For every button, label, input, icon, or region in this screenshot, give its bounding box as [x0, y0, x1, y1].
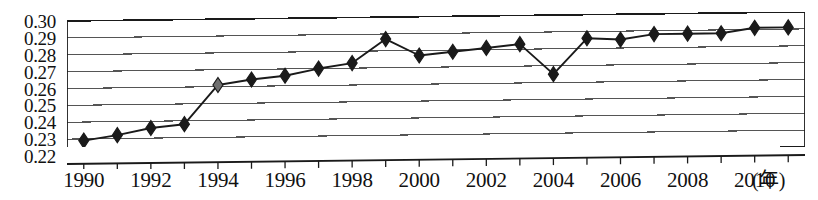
- x-tick-label: 2008: [667, 168, 708, 192]
- gridlines: [67, 12, 805, 147]
- data-point-marker: [616, 32, 626, 47]
- data-point-marker: [314, 61, 324, 76]
- data-point-marker: [247, 72, 257, 87]
- x-tick-label: 2010: [734, 168, 775, 192]
- data-point-marker: [548, 67, 558, 82]
- line-chart: 0.220.230.240.250.260.270.280.290.30 (年)…: [0, 0, 818, 200]
- plot-area: [67, 12, 805, 147]
- plot-frame: [67, 12, 805, 147]
- x-tick-label: 2002: [466, 168, 507, 192]
- x-tick-label: 1992: [130, 168, 171, 192]
- data-point-marker: [280, 68, 290, 83]
- data-point-marker: [112, 128, 122, 143]
- x-tick-label: 2004: [533, 168, 574, 192]
- x-tick-label: 1996: [264, 168, 305, 192]
- x-axis-ticks: [67, 147, 807, 169]
- x-tick-label: 2000: [399, 168, 440, 192]
- data-point-marker: [683, 26, 693, 41]
- x-tick-label: 2006: [600, 168, 641, 192]
- data-point-marker: [649, 27, 659, 42]
- x-axis: (年) 199019921994199619982000200220042006…: [0, 168, 818, 200]
- data-point-marker: [750, 20, 760, 35]
- data-point-marker: [146, 120, 156, 135]
- x-tick-label: 1998: [332, 168, 373, 192]
- data-point-marker: [582, 31, 592, 46]
- x-tick-label: 1990: [63, 168, 104, 192]
- x-tick-label: 1994: [197, 168, 238, 192]
- data-point-marker: [783, 20, 793, 35]
- chart-canvas: [67, 12, 805, 147]
- data-point-marker: [448, 44, 458, 59]
- data-point-marker: [481, 40, 491, 55]
- y-tick-label: 0.30: [24, 12, 56, 31]
- data-point-marker: [79, 133, 89, 147]
- data-point-marker: [716, 26, 726, 41]
- data-markers: [79, 20, 793, 147]
- y-axis: 0.220.230.240.250.260.270.280.290.30: [0, 0, 64, 160]
